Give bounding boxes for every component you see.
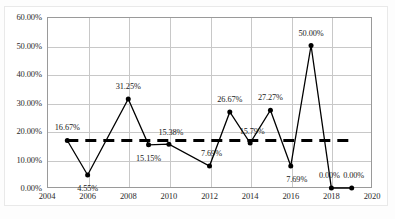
data-point-label: 7.69% [201,149,222,158]
data-point-label: 7.69% [286,175,307,184]
x-tick-label: 2018 [323,191,340,201]
data-point-label: 16.67% [55,123,80,132]
x-tick-label: 2004 [39,191,56,201]
y-tick-label: 50.00% [16,41,42,51]
chart-container: 0.00%10.00%20.00%30.00%40.00%50.00%60.00… [0,0,395,219]
y-tick-label: 40.00% [16,69,42,79]
data-point-label: 15.38% [158,128,183,137]
data-point-label: 31.25% [116,81,141,90]
data-point-label: 27.27% [258,93,283,102]
data-point-label: 15.15% [136,153,161,162]
x-tick-label: 2012 [201,191,218,201]
x-tick-label: 2010 [161,191,178,201]
y-tick-label: 20.00% [16,126,42,136]
data-point-label: 0.00% [319,171,340,180]
y-tick-label: 60.00% [16,12,42,22]
data-point-label: 50.00% [299,28,324,37]
x-tick-label: 2016 [282,191,299,201]
data-point-label: 0.00% [343,171,364,180]
x-tick-label: 2008 [120,191,137,201]
x-tick-label: 2006 [79,191,96,201]
x-tick-label: 2020 [364,191,381,201]
y-tick-label: 10.00% [16,155,42,165]
y-axis: 0.00%10.00%20.00%30.00%40.00%50.00%60.00… [0,17,45,188]
y-tick-label: 30.00% [16,98,42,108]
data-label-layer: 16.67%4.55%31.25%15.15%15.38%7.69%26.67%… [47,17,372,188]
x-tick-label: 2014 [242,191,259,201]
data-point-label: 15.79% [240,126,265,135]
x-axis: 200420062008201020122014201620182020 [47,189,372,205]
data-point-label: 26.67% [217,94,242,103]
